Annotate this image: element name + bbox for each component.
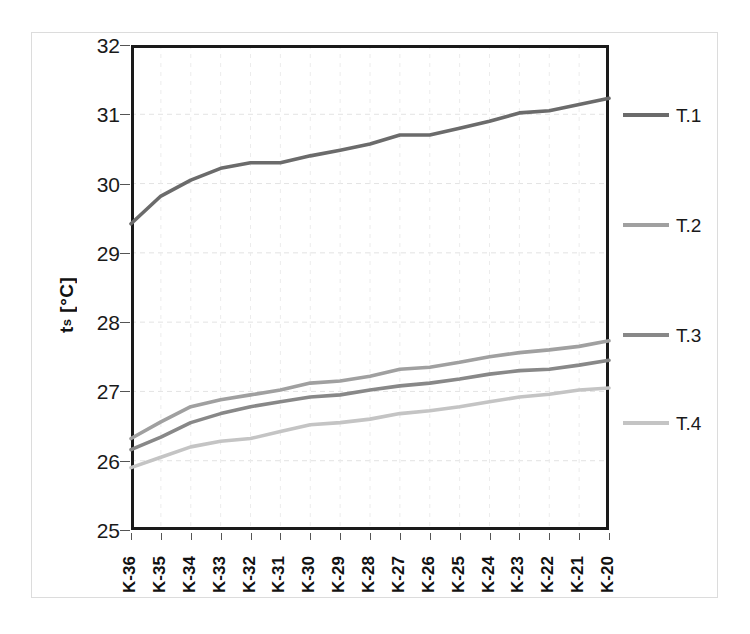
x-axis-tick-label: K-31 [271, 536, 289, 614]
legend-swatch-icon [623, 421, 669, 425]
legend-swatch-icon [623, 113, 669, 117]
legend-item-t2[interactable]: T.2 [623, 215, 701, 235]
x-axis-tick-label: K-35 [152, 536, 170, 614]
chart-series-layer [131, 45, 609, 530]
x-axis-tick-label: K-29 [331, 536, 349, 614]
series-line-t4 [131, 388, 609, 468]
legend-item-t1[interactable]: T.1 [623, 105, 701, 125]
y-axis-tick-label: 31 [74, 104, 120, 125]
x-axis-tick-label: K-26 [421, 536, 439, 614]
y-axis-title-text: ts [°C] [56, 277, 78, 333]
legend-item-t4[interactable]: T.4 [623, 413, 701, 433]
x-axis-tick-label: K-24 [481, 536, 499, 614]
legend-label: T.1 [676, 106, 701, 125]
x-axis-tick-label: K-33 [212, 536, 230, 614]
y-axis-subscript: s [59, 319, 74, 327]
y-axis-title: ts [°C] [52, 245, 82, 365]
y-axis-tick-label: 25 [74, 520, 120, 541]
series-line-t1 [131, 98, 609, 223]
x-axis-tick-label: K-28 [361, 536, 379, 614]
x-axis-tick-label: K-30 [301, 536, 319, 614]
legend-swatch-icon [623, 223, 669, 227]
legend-item-t3[interactable]: T.3 [623, 325, 701, 345]
legend-label: T.2 [676, 216, 701, 235]
y-axis-tick-mark [120, 45, 130, 46]
legend-swatch-icon [623, 333, 669, 337]
x-axis-tick-label: K-21 [570, 536, 588, 614]
y-axis-tick-mark [120, 322, 130, 323]
x-axis-tick-label: K-32 [242, 536, 260, 614]
legend-label: T.4 [676, 414, 701, 433]
x-axis-tick-label: K-25 [451, 536, 469, 614]
x-axis-ticks: K-36K-35K-34K-33K-32K-31K-30K-29K-28K-27… [131, 533, 609, 618]
y-axis-tick-mark [120, 461, 130, 462]
x-axis-tick-label: K-36 [122, 536, 140, 614]
y-axis-tick-label: 32 [74, 35, 120, 56]
y-axis-tick-mark [120, 184, 130, 185]
y-axis-tick-mark [120, 391, 130, 392]
y-axis-tick-label: 26 [74, 450, 120, 471]
x-axis-tick-label: K-27 [391, 536, 409, 614]
y-axis-tick-label: 30 [74, 173, 120, 194]
x-axis-tick-label: K-22 [540, 536, 558, 614]
y-axis-tick-label: 27 [74, 381, 120, 402]
x-axis-tick-label: K-23 [510, 536, 528, 614]
y-axis-tick-mark [120, 253, 130, 254]
figure-canvas: 2526272829303132 ts [°C] K-36K-35K-34K-3… [0, 0, 750, 634]
y-axis-symbol: t [56, 326, 77, 333]
y-axis-unit: [°C] [56, 277, 77, 319]
y-axis-tick-mark [120, 530, 130, 531]
line-chart: 2526272829303132 ts [°C] K-36K-35K-34K-3… [0, 0, 750, 634]
y-axis-tick-mark [120, 114, 130, 115]
chart-legend: T.1T.2T.3T.4 [623, 45, 733, 445]
x-axis-tick-label: K-34 [182, 536, 200, 614]
legend-label: T.3 [676, 326, 701, 345]
x-axis-tick-label: K-20 [600, 536, 618, 614]
